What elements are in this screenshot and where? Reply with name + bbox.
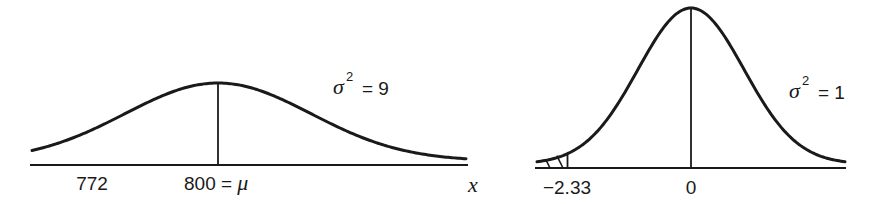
tick-label-800-mu: 800 = μ — [184, 170, 248, 195]
variance-value-right: = 1 — [818, 82, 845, 103]
variance-value-left: = 9 — [362, 78, 389, 99]
sigma-symbol-left: σ — [333, 74, 345, 99]
normal-distributions-figure: 772 800 = μ x σ 2 = 9 −2.33 0 σ 2 = 1 — [0, 0, 882, 204]
variance-label-right: σ 2 = 1 — [789, 73, 845, 103]
sigma-symbol-right: σ — [789, 78, 801, 103]
tick-label-772: 772 — [76, 173, 108, 194]
chart-right: −2.33 0 σ 2 = 1 — [535, 8, 846, 198]
mu-symbol: μ — [236, 170, 248, 195]
density-curve-left — [32, 83, 466, 159]
variance-label-left: σ 2 = 9 — [333, 69, 389, 99]
tick-label-0: 0 — [686, 177, 697, 198]
sup-2-right: 2 — [802, 73, 809, 88]
chart-left: 772 800 = μ x σ 2 = 9 — [0, 69, 478, 197]
tick-label-neg-2-33: −2.33 — [543, 177, 591, 198]
sup-2-left: 2 — [346, 69, 353, 84]
x-axis-label: x — [467, 172, 478, 197]
tick-800-value: 800 = — [184, 173, 237, 194]
